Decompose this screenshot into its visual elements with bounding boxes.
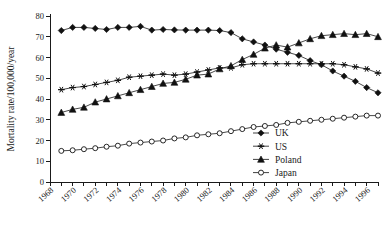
data-point (58, 87, 64, 93)
legend-item-poland[interactable]: Poland (253, 155, 302, 165)
x-tick-label: 1984 (217, 185, 237, 204)
data-point (341, 62, 347, 68)
data-point (239, 62, 245, 68)
data-point (137, 23, 143, 29)
data-point (240, 127, 245, 132)
data-point (160, 71, 166, 77)
data-point (352, 78, 358, 84)
data-point (171, 72, 177, 78)
x-tick-label: 1988 (262, 185, 281, 204)
y-tick-label: 50 (36, 73, 45, 83)
data-point (126, 74, 132, 80)
y-axis-title-text: Mortality rate/100,000/year (6, 46, 16, 152)
data-point (115, 78, 121, 84)
data-point (262, 61, 268, 67)
data-point (93, 146, 98, 151)
data-point (330, 116, 335, 121)
y-tick-label: 70 (36, 32, 45, 42)
data-point (171, 27, 177, 33)
y-tick-label: 20 (36, 136, 45, 146)
x-tick-label: 1994 (330, 185, 350, 204)
data-point (375, 90, 381, 96)
data-point (149, 27, 155, 33)
x-tick-label: 1972 (81, 185, 100, 204)
data-point (295, 40, 302, 46)
x-tick-label: 1974 (104, 185, 124, 204)
data-point (364, 84, 370, 90)
data-point (160, 26, 166, 32)
data-point (182, 76, 189, 82)
legend-item-uk[interactable]: UK (253, 128, 289, 138)
data-point (258, 130, 264, 136)
data-point (296, 61, 302, 67)
data-point (81, 147, 86, 152)
data-point (251, 125, 256, 130)
y-tick-label: 60 (36, 53, 45, 63)
data-point (308, 118, 313, 123)
x-tick-label: 1990 (285, 185, 304, 204)
data-point (239, 36, 245, 42)
data-point (104, 144, 109, 149)
data-point (250, 61, 256, 67)
y-tick-label: 30 (36, 115, 45, 125)
data-point (273, 42, 280, 48)
data-point (92, 82, 98, 88)
data-point (138, 140, 143, 145)
data-point (363, 30, 370, 36)
x-tick-label: 1980 (172, 185, 191, 204)
data-point (258, 143, 264, 149)
data-point (149, 72, 155, 78)
legend-item-us[interactable]: US (253, 142, 287, 152)
x-tick-label: 1968 (36, 185, 55, 204)
data-point (228, 62, 235, 68)
data-point (274, 122, 279, 127)
data-point (330, 61, 336, 67)
data-point (127, 141, 132, 146)
x-tick-label: 1996 (353, 185, 372, 204)
data-point (172, 136, 177, 141)
y-tick-label: 10 (36, 156, 45, 166)
data-point (217, 27, 223, 33)
y-tick-label: 40 (36, 94, 45, 104)
data-point (376, 113, 381, 118)
data-point (259, 170, 264, 175)
data-point (330, 68, 336, 74)
legend-label: UK (275, 128, 289, 138)
data-point (81, 24, 87, 30)
data-point (92, 25, 98, 31)
data-point (262, 123, 267, 128)
x-axis: 1968197019721974197619781980198219841986… (36, 182, 378, 204)
x-tick-label: 1992 (307, 185, 326, 204)
series-layer (58, 23, 381, 153)
data-point (228, 129, 233, 134)
legend-label: Poland (275, 155, 302, 165)
data-point (285, 120, 290, 125)
data-point (239, 56, 246, 62)
data-point (319, 117, 324, 122)
x-tick-label: 1982 (194, 185, 213, 204)
data-point (217, 131, 222, 136)
data-point (194, 27, 200, 33)
data-point (375, 70, 381, 76)
data-point (342, 115, 347, 120)
data-point (250, 39, 256, 45)
data-point (195, 133, 200, 138)
data-point (205, 71, 212, 77)
legend-item-japan[interactable]: Japan (253, 168, 297, 178)
data-point (103, 80, 109, 86)
y-tick-label: 0 (40, 177, 44, 187)
data-point (352, 64, 358, 70)
data-point (69, 85, 75, 91)
data-point (296, 119, 301, 124)
data-point (250, 51, 257, 57)
chart-svg: 01020304050607080 1968197019721974197619… (0, 0, 387, 228)
data-point (81, 84, 87, 90)
data-point (70, 148, 75, 153)
data-point (149, 139, 154, 144)
data-point (228, 30, 234, 36)
series-japan (59, 113, 381, 153)
data-point (58, 27, 64, 33)
data-point (318, 62, 324, 68)
data-point (183, 135, 188, 140)
x-tick-label: 1970 (59, 185, 78, 204)
